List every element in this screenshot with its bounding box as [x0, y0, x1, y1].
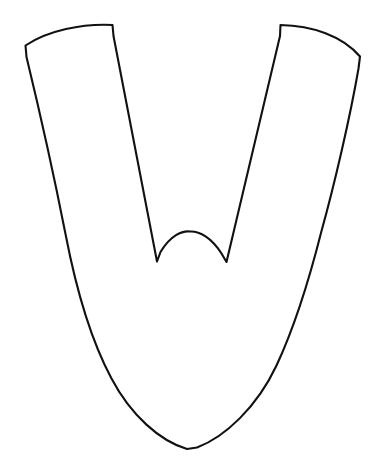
figure-caption — [0, 462, 378, 469]
line-drawing-canvas — [0, 0, 378, 469]
figure-root — [0, 0, 378, 469]
